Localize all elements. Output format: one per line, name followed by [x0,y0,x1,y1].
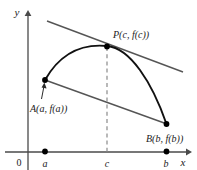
tick-label-a: a [43,158,48,169]
point-label-a: A(a, f(a)) [29,103,68,115]
y-axis-arrow-icon [25,10,32,16]
secant-line-ab [45,80,167,124]
axis-marker-a [42,149,48,155]
x-axis-label: x [180,156,186,168]
mean-value-theorem-figure: y x 0 a c b P(c, f(c)) A(a, f(a)) B(b, f… [0,0,197,170]
axes-group [5,10,192,170]
axis-marker-b [164,149,170,155]
point-label-p: P(c, f(c)) [112,29,150,41]
tick-label-c: c [105,158,110,169]
point-label-b: B(b, f(b)) [146,133,184,145]
origin-label: 0 [17,157,22,168]
x-axis-arrow-icon [186,149,192,156]
point-marker-p [104,44,110,50]
tick-label-b: b [164,158,169,169]
y-axis-label: y [14,6,20,18]
point-marker-a [42,77,48,83]
label-leader-arrow-a [42,83,47,100]
point-marker-b [164,121,170,127]
